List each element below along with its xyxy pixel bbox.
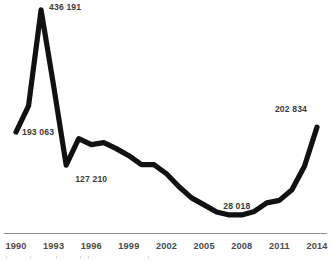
first-point-label: 193 063 bbox=[22, 128, 54, 137]
scan-speckle bbox=[30, 256, 31, 259]
trough-1994-point-label: 127 210 bbox=[75, 175, 107, 184]
x-tick-label-2011: 2011 bbox=[269, 242, 290, 251]
scan-speckle bbox=[56, 256, 57, 259]
x-tick-label-2014: 2014 bbox=[306, 242, 327, 251]
x-tick-label-2008: 2008 bbox=[231, 242, 252, 251]
scan-speckle bbox=[88, 256, 89, 259]
x-axis-line bbox=[4, 233, 327, 234]
x-tick-label-1996: 1996 bbox=[81, 242, 102, 251]
x-tick-label-2005: 2005 bbox=[194, 242, 215, 251]
scan-speckle bbox=[6, 256, 7, 259]
x-tick-label-1993: 1993 bbox=[43, 242, 64, 251]
scan-speckle bbox=[148, 256, 149, 259]
minimum-point-label: 28 018 bbox=[223, 202, 250, 211]
x-tick-label-2002: 2002 bbox=[156, 242, 177, 251]
scan-speckle bbox=[80, 256, 81, 259]
data-series-line bbox=[16, 10, 317, 215]
peak-point-label: 436 191 bbox=[49, 3, 81, 12]
x-tick-label-1990: 1990 bbox=[5, 242, 26, 251]
x-tick-label-1999: 1999 bbox=[118, 242, 139, 251]
line-chart: 199019931996199920022005200820112014 193… bbox=[0, 0, 331, 262]
last-point-label: 202 834 bbox=[275, 105, 307, 114]
